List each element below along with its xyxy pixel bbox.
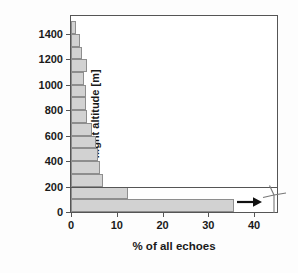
rotor-height-line: [71, 187, 277, 188]
y-axis-tick: [66, 187, 71, 188]
y-axis-tick-label: 1400: [39, 28, 63, 40]
bar: [71, 148, 98, 161]
x-axis-tick-label: 40: [248, 219, 260, 231]
plot-area: flight altitude [m] 02004006008001000120…: [70, 15, 278, 213]
y-axis-tick-label: 800: [45, 104, 63, 116]
x-axis-tick: [208, 212, 209, 217]
y-axis-tick: [66, 161, 71, 162]
bar: [71, 136, 96, 149]
bar: [71, 97, 86, 110]
bar: [71, 110, 87, 123]
y-axis-tick: [66, 85, 71, 86]
bar: [71, 187, 128, 200]
bar: [71, 47, 82, 60]
x-axis-tick: [163, 212, 164, 217]
y-axis-tick-label: 0: [57, 206, 63, 218]
y-axis-tick-label: 400: [45, 155, 63, 167]
x-axis-tick: [117, 212, 118, 217]
y-axis-tick: [66, 110, 71, 111]
x-axis-tick-label: 0: [68, 219, 74, 231]
y-axis-tick: [66, 59, 71, 60]
x-axis-tick: [254, 212, 255, 217]
x-axis-tick-label: 10: [111, 219, 123, 231]
y-axis-tick-label: 600: [45, 130, 63, 142]
bar: [71, 85, 86, 98]
bar: [71, 174, 103, 187]
x-axis-tick: [71, 212, 72, 217]
y-axis-tick-label: 1000: [39, 79, 63, 91]
bar: [71, 21, 76, 34]
chart-figure: flight altitude [m] 02004006008001000120…: [0, 0, 298, 273]
x-axis-tick-label: 30: [202, 219, 214, 231]
y-axis-tick: [66, 34, 71, 35]
bar: [71, 123, 92, 136]
bars-layer: [71, 16, 277, 212]
bar: [71, 199, 234, 212]
y-axis-tick-label: 1200: [39, 53, 63, 65]
bar: [71, 34, 80, 47]
bar: [71, 72, 84, 85]
y-axis-tick: [66, 136, 71, 137]
bar: [71, 161, 100, 174]
y-axis-tick-label: 200: [45, 181, 63, 193]
x-axis-title: % of all echoes: [70, 240, 278, 252]
x-axis-tick-label: 20: [156, 219, 168, 231]
bar: [71, 59, 87, 72]
